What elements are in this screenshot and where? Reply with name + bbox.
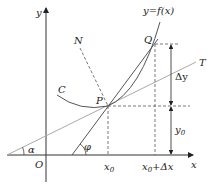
alpha-arc: [23, 147, 25, 155]
normal-line: [80, 48, 108, 106]
normal-n-label: N: [73, 35, 84, 46]
curve-c-label: C: [58, 84, 66, 95]
point-q-label: Q: [144, 34, 152, 45]
phi-label: φ: [84, 141, 91, 152]
tangent-t-label: T: [199, 57, 207, 68]
origin-label: O: [35, 159, 43, 170]
delta-y-label: Δy: [175, 71, 188, 82]
function-label: y=f(x): [142, 5, 174, 16]
x0-label: x0: [104, 161, 115, 174]
x-axis-label: x: [191, 159, 197, 170]
y-axis-label: y: [35, 7, 42, 18]
tangent-line: [7, 62, 196, 155]
alpha-label: α: [28, 144, 35, 155]
x0-dx-label: x0+Δx: [142, 161, 174, 174]
secant-line: [72, 39, 158, 155]
y0-label: y0: [174, 124, 186, 137]
derivative-diagram: y x O y=f(x) C N T P Q α φ x0 x0+Δx Δy y…: [0, 0, 218, 188]
point-p-label: P: [95, 95, 103, 106]
